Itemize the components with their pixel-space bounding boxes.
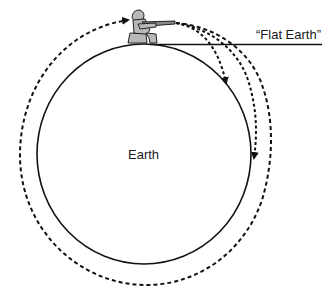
diagram-canvas: Earth “Flat Earth” bbox=[0, 0, 333, 296]
diagram-svg: Earth “Flat Earth” bbox=[0, 0, 333, 296]
flat-earth-label: “Flat Earth” bbox=[256, 27, 321, 42]
earth-label: Earth bbox=[128, 147, 159, 162]
cannoneer-figure bbox=[128, 10, 175, 43]
medium-trajectory bbox=[176, 23, 256, 158]
